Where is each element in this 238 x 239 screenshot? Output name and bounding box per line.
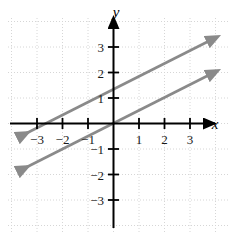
x-tick-label--3: −3 [30, 132, 44, 147]
x-tick-label-3: 3 [187, 132, 194, 147]
graph-canvas: −3 −2 −1 1 2 3 3 2 1 −1 −2 −3 x y [0, 0, 238, 239]
x-tick-label--2: −2 [56, 132, 70, 147]
x-tick-labels: −3 −2 −1 1 2 3 [30, 132, 193, 147]
y-tick-label--3: −3 [90, 193, 104, 208]
coordinate-plane-figure: −3 −2 −1 1 2 3 3 2 1 −1 −2 −3 x y [0, 0, 238, 239]
x-axis-title: x [211, 116, 219, 132]
y-tick-label-3: 3 [98, 40, 105, 55]
y-tick-label-1: 1 [98, 91, 105, 106]
y-tick-label-2: 2 [98, 66, 105, 81]
y-tick-label--2: −2 [90, 168, 104, 183]
x-tick-label-2: 2 [161, 132, 168, 147]
y-tick-label--1: −1 [90, 142, 104, 157]
x-tick-label-1: 1 [136, 132, 143, 147]
y-axis-title: y [111, 4, 120, 20]
